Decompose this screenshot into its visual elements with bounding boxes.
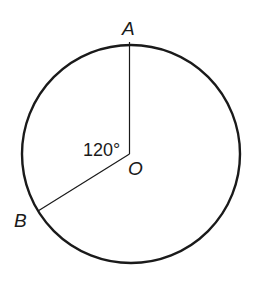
point-b-label: B	[14, 210, 27, 231]
circle-diagram: A B O 120°	[0, 0, 257, 284]
point-a-label: A	[121, 18, 135, 39]
circle	[22, 45, 240, 263]
center-o-label: O	[128, 158, 143, 179]
radius-ob	[38, 154, 130, 211]
angle-label: 120°	[83, 140, 120, 160]
